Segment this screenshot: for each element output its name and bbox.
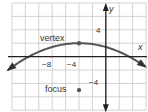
x-axis-label: x (137, 42, 143, 52)
y-axis-arrow-up-icon (103, 3, 109, 11)
x-tick-label-neg8: −8 (42, 60, 52, 69)
parabola-graph: x y −8 −4 4 −4 vertex focus (0, 0, 148, 112)
vertex-label: vertex (40, 33, 65, 43)
focus-label: focus (45, 84, 67, 94)
y-tick-label-4: 4 (96, 26, 101, 35)
vertex-point (77, 41, 81, 45)
x-tick-label-neg4: −4 (67, 60, 77, 69)
curve-arrow-right-icon (137, 59, 147, 68)
focus-point (77, 88, 81, 92)
curve-arrowheads (6, 59, 147, 71)
y-axis-label: y (108, 4, 114, 14)
y-axis-arrow-down-icon (103, 104, 109, 112)
y-tick-label-neg4: −4 (89, 78, 99, 87)
